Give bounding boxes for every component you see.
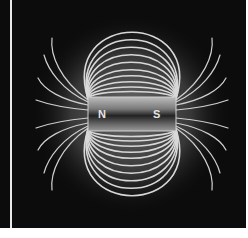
field-lines-diagram — [0, 0, 248, 238]
north-pole-label: N — [98, 109, 106, 120]
south-pole-label: S — [153, 109, 160, 120]
